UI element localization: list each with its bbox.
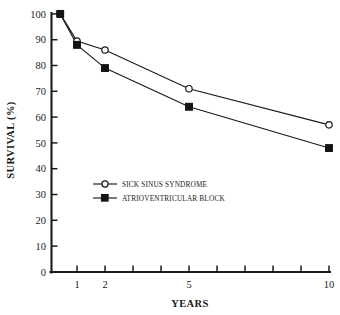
y-tick-label-0: 0 [41,267,46,278]
data-point-filled-square [74,41,81,48]
chart-legend: SICK SINUS SYNDROME ATRIOVENTRICULAR BLO… [93,180,225,203]
data-point-filled-square [326,145,333,152]
legend-marker-filled-square-icon [102,195,109,202]
series-line-atrioventricular-block [60,14,329,148]
x-tick-label-10: 10 [324,279,335,290]
series-markers-sick-sinus-syndrome [57,11,332,128]
x-tick-label-1: 1 [74,279,79,290]
data-point-filled-square [57,11,64,18]
y-tick-label-10: 10 [36,241,47,252]
series-markers-atrioventricular-block [57,11,333,152]
data-point-open-circle [326,122,332,128]
data-point-filled-square [102,65,109,72]
legend-label-0: SICK SINUS SYNDROME [122,180,208,189]
x-axis-title: YEARS [171,298,209,309]
y-tick-label-30: 30 [36,189,47,200]
data-point-open-circle [102,47,108,53]
y-tick-label-90: 90 [36,34,47,45]
data-point-open-circle [186,86,192,92]
legend-marker-open-circle-icon [102,181,108,187]
survival-chart-figure: 100 90 80 70 60 50 40 30 20 10 0 1 2 5 1… [0,0,340,315]
x-tick-label-5: 5 [186,279,191,290]
data-point-filled-square [186,103,193,110]
y-axis-title: SURVIVAL (%) [5,101,17,179]
y-tick-label-40: 40 [36,163,47,174]
y-tick-label-50: 50 [36,138,47,149]
y-tick-label-20: 20 [36,215,47,226]
y-tick-label-80: 80 [36,60,47,71]
x-tick-label-2: 2 [102,279,107,290]
y-tick-label-60: 60 [36,112,47,123]
y-tick-label-70: 70 [36,86,47,97]
y-tick-label-100: 100 [30,9,46,20]
legend-label-1: ATRIOVENTRICULAR BLOCK [122,194,225,203]
chart-canvas: 100 90 80 70 60 50 40 30 20 10 0 1 2 5 1… [0,0,340,315]
